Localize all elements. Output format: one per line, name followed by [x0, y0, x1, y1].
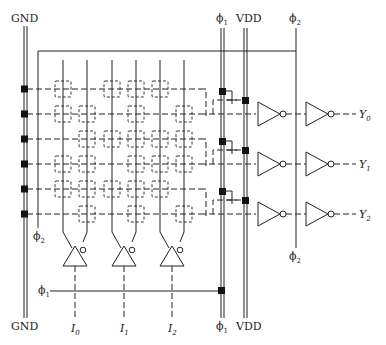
vdd-junction	[242, 97, 249, 104]
inverter-bubble	[328, 111, 334, 117]
phi2-label-bottom: ϕ2	[289, 250, 301, 265]
output-inverters: Y0Y1Y2	[258, 102, 371, 226]
pla-circuit-diagram: GND GND ϕ2 ϕ1 ϕ1 VDD VDD ϕ2 ϕ2 ϕ1 I0I1I2…	[0, 0, 386, 345]
row-precharge-transistors	[200, 88, 256, 216]
input-label-i0: I0	[70, 322, 80, 337]
precharge-channel	[213, 100, 244, 114]
inverter-bubble	[280, 211, 286, 217]
output-label-y1: Y1	[359, 158, 371, 173]
phi2-label-left: ϕ2	[33, 230, 45, 245]
true-output-wire	[112, 226, 121, 248]
crosspoint-transistors	[55, 81, 192, 222]
gnd-label-bottom: GND	[11, 320, 38, 333]
inverter-1	[258, 102, 280, 126]
inverter-bubble	[280, 161, 286, 167]
gnd-row-junction	[21, 86, 28, 93]
gnd-row-junction	[21, 161, 28, 168]
buffer-bubble	[80, 247, 86, 253]
gnd-label-top: GND	[11, 12, 38, 25]
phi1-label-top: ϕ1	[216, 12, 228, 27]
vdd-junction	[242, 147, 249, 154]
row-pair-bracket	[200, 189, 206, 216]
buffer-bubble	[177, 247, 183, 253]
true-output-wire	[160, 226, 169, 248]
precharge-channel	[213, 150, 244, 164]
vdd-label-top: VDD	[235, 12, 262, 25]
output-label-y0: Y0	[359, 108, 371, 123]
input-label-i1: I1	[119, 322, 129, 337]
phi1-bus	[221, 28, 224, 318]
true-output-wire	[63, 226, 72, 248]
phi1-label-bottom: ϕ1	[216, 320, 228, 335]
inverter-2	[306, 152, 328, 176]
row-lines	[21, 86, 200, 218]
output-label-y2: Y2	[359, 208, 371, 223]
inverter-2	[306, 202, 328, 226]
complement-output-wire	[132, 226, 136, 242]
vdd-bus	[244, 28, 247, 318]
input-label-i2: I2	[167, 322, 177, 337]
inverter-bubble	[328, 211, 334, 217]
complement-output-wire	[180, 226, 184, 242]
input-buffers: I0I1I2	[63, 226, 184, 337]
inverter-2	[306, 102, 328, 126]
gnd-row-junction	[21, 211, 28, 218]
precharge-channel	[213, 200, 244, 214]
vdd-label-bottom: VDD	[235, 320, 262, 333]
phi1-clock-junction	[218, 287, 225, 294]
gnd-row-junction	[21, 136, 28, 143]
gnd-bus	[24, 26, 27, 318]
complement-output-wire	[83, 226, 87, 242]
inverter-bubble	[280, 111, 286, 117]
phi1-clock-label: ϕ1	[38, 284, 50, 299]
gnd-row-junction	[21, 111, 28, 118]
phi2-label-top: ϕ2	[289, 12, 301, 27]
gnd-row-junction	[21, 186, 28, 193]
row-pair-bracket	[200, 89, 206, 116]
row-pair-bracket	[200, 139, 206, 166]
column-lines	[63, 60, 184, 226]
vdd-junction	[242, 197, 249, 204]
inverter-1	[258, 152, 280, 176]
inverter-bubble	[328, 161, 334, 167]
buffer-bubble	[129, 247, 135, 253]
inverter-1	[258, 202, 280, 226]
